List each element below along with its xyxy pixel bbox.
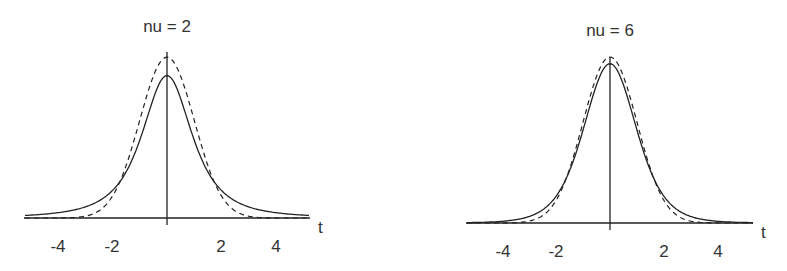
tick-label: -4 bbox=[495, 242, 510, 261]
chart-title: nu = 2 bbox=[143, 17, 191, 36]
x-axis-label: t bbox=[318, 218, 323, 237]
tick-label: -2 bbox=[104, 237, 119, 256]
x-axis-label: t bbox=[761, 223, 766, 242]
chart-panel-nu-2: nu = 2 t -4 -2 2 4 bbox=[24, 17, 323, 256]
chart-title: nu = 6 bbox=[586, 21, 634, 40]
tick-label: 4 bbox=[713, 242, 722, 261]
tick-label: 4 bbox=[271, 237, 280, 256]
chart-panel-nu-6: nu = 6 t -4 -2 2 4 bbox=[466, 21, 766, 261]
tick-label: 2 bbox=[659, 242, 668, 261]
tick-label: -4 bbox=[50, 237, 65, 256]
tick-label: 2 bbox=[216, 237, 225, 256]
tick-label: -2 bbox=[548, 242, 563, 261]
t-distribution-figure: nu = 2 t -4 -2 2 4 nu = 6 t -4 -2 2 4 bbox=[0, 0, 787, 271]
